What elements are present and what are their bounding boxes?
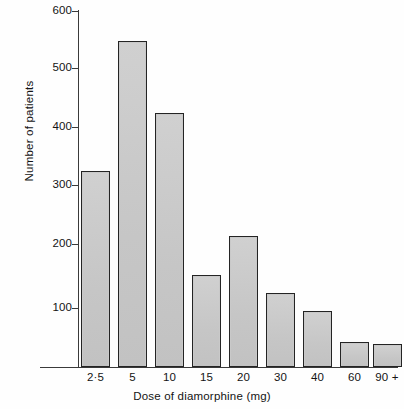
x-tick-label-3: 15	[192, 371, 221, 383]
x-tick-label-5: 30	[266, 371, 295, 383]
x-tick-label-2: 10	[155, 371, 184, 383]
bar-chart-figure: Number of patients 600 500 400 300 200 1…	[0, 0, 404, 409]
bar-5	[266, 293, 295, 367]
bar-3	[192, 275, 221, 367]
x-tick-label-0: 2·5	[81, 371, 110, 383]
x-tick-label-8: 90 +	[369, 371, 404, 383]
bar-0	[81, 171, 110, 367]
bar-1	[118, 41, 147, 367]
bar-7	[340, 342, 369, 367]
x-tick-label-4: 20	[229, 371, 258, 383]
plot-area	[0, 0, 404, 409]
bar-4	[229, 236, 258, 367]
bar-6	[303, 311, 332, 367]
x-axis-label: Dose of diamorphine (mg)	[0, 390, 404, 402]
x-tick-label-7: 60	[340, 371, 369, 383]
x-tick-label-1: 5	[118, 371, 147, 383]
bar-8	[373, 344, 402, 367]
bar-2	[155, 113, 184, 367]
x-tick-label-6: 40	[303, 371, 332, 383]
